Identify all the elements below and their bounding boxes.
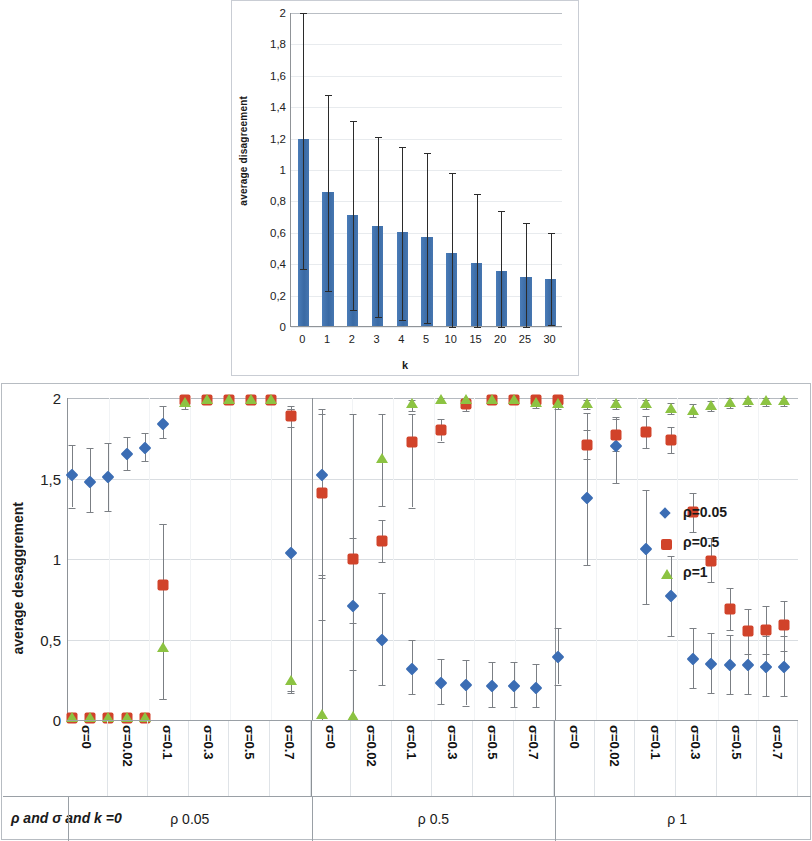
x-axis-sigma-label: σ=0.02	[607, 725, 622, 767]
top-chart-x-axis-label: k	[232, 359, 578, 371]
error-bar-cap	[399, 147, 406, 148]
data-point-marker	[405, 662, 418, 675]
bottom-scatter-chart-panel: average desaggrement 21,510,50 ρ=0.05ρ=0…	[1, 383, 811, 840]
data-point-marker	[102, 471, 115, 484]
error-bar-cap	[424, 323, 431, 324]
data-point-marker	[84, 475, 97, 488]
error-bar-cap	[463, 706, 470, 707]
data-point-marker	[666, 434, 677, 445]
error-bar-cap	[726, 588, 733, 589]
error-bar-cap	[548, 325, 555, 326]
top-chart-gridline	[291, 327, 562, 328]
error-bar-cap	[584, 413, 591, 414]
legend-label: ρ=1	[683, 564, 708, 580]
error-bar-cap	[350, 414, 357, 415]
cell-divider	[474, 398, 475, 720]
data-point-marker	[179, 397, 191, 407]
error-bar-cap	[408, 694, 415, 695]
footer-separator	[312, 797, 313, 841]
data-point-marker	[376, 633, 389, 646]
top-chart-gridline	[291, 13, 562, 14]
error-bar-cap	[424, 153, 431, 154]
data-point-marker	[742, 395, 754, 405]
bottom-chart-y-tick: 0	[53, 712, 61, 729]
error-bar-cap	[532, 664, 539, 665]
x-axis-group-separator	[311, 721, 312, 797]
top-chart-y-tick: 0,8	[270, 195, 286, 207]
error-bar-cap	[319, 414, 326, 415]
error-bar-cap	[160, 699, 167, 700]
error-bar-cap	[408, 411, 415, 412]
top-chart-plot-area	[290, 13, 562, 327]
x-axis-sigma-label: σ=0.3	[445, 725, 460, 760]
data-point-marker	[552, 398, 564, 408]
error-bar-cap	[690, 493, 697, 494]
error-bar-cap	[160, 406, 167, 407]
error-bar-cap	[379, 685, 386, 686]
x-axis-cell: σ=0.3	[676, 721, 717, 797]
x-axis-group-label: ρ 0.05	[170, 811, 209, 827]
data-point-marker	[223, 394, 235, 404]
x-axis-cell: σ=0	[554, 721, 595, 797]
data-point-marker	[761, 624, 772, 635]
top-chart-x-tick-labels: 0123451015202530	[290, 331, 562, 349]
error-bar-cap	[379, 506, 386, 507]
error-bar-cap	[379, 593, 386, 594]
legend-item[interactable]: ρ=0.5	[657, 534, 797, 556]
error-bar-cap	[319, 575, 326, 576]
data-point-marker	[724, 603, 735, 614]
error-bar-cap	[642, 409, 649, 410]
top-chart-y-tick: 0	[280, 321, 286, 333]
x-axis-group-label: ρ 0.5	[418, 811, 449, 827]
x-axis-sigma-label: σ=0.1	[404, 725, 419, 760]
error-bar-cap	[668, 453, 675, 454]
top-chart-gridline	[291, 107, 562, 108]
error-bar-cap	[523, 327, 530, 328]
top-chart-y-tick: 1,4	[270, 101, 286, 113]
x-axis-cell: σ=0.7	[270, 721, 311, 797]
error-bar-cap	[350, 310, 357, 311]
error-bar-cap	[437, 659, 444, 660]
error-bar-cap	[613, 419, 620, 420]
error-bar-cap	[319, 409, 326, 410]
x-axis-sigma-label: σ=0.02	[364, 725, 379, 767]
data-point-marker	[406, 398, 418, 408]
data-point-marker	[742, 626, 753, 637]
x-axis-sigma-label: σ=0.3	[201, 725, 216, 760]
error-bar-cap	[288, 693, 295, 694]
error-bar-cap	[510, 707, 517, 708]
legend-label: ρ=0.05	[683, 504, 727, 520]
error-bar-cap	[532, 707, 539, 708]
cell-divider	[596, 398, 597, 720]
bottom-chart-x-axis: σ=0σ=0.02σ=0.1σ=0.3σ=0.5σ=0.7σ=0σ=0.02σ=…	[67, 720, 798, 797]
error-bar-cap	[763, 606, 770, 607]
data-point-marker	[741, 659, 754, 672]
top-chart-y-tick: 0,4	[270, 258, 286, 270]
error-bar-cap	[408, 414, 415, 415]
x-axis-cell: σ=0.02	[351, 721, 392, 797]
error-bar-cap	[489, 707, 496, 708]
x-axis-cell: σ=0	[311, 721, 352, 797]
error-bar-cap	[160, 438, 167, 439]
error-bar-cap	[182, 409, 189, 410]
data-point-marker	[316, 709, 328, 719]
data-point-marker	[486, 394, 498, 404]
top-bar-chart-panel: average disagreement 21,81,61,41,210,80,…	[231, 0, 579, 376]
data-point-marker	[285, 675, 297, 685]
legend-item[interactable]: ρ=1	[657, 564, 797, 586]
error-bar-cap	[288, 406, 295, 407]
error-bar-cap	[379, 414, 386, 415]
x-axis-cell: σ=0.1	[148, 721, 189, 797]
error-bar-cap	[325, 95, 332, 96]
top-chart-y-tick-labels: 21,81,61,41,210,80,60,40,20	[254, 7, 290, 327]
legend-item[interactable]: ρ=0.05	[657, 504, 797, 526]
x-axis-cell: σ=0.02	[595, 721, 636, 797]
error-bar	[328, 95, 329, 291]
error-bar	[427, 153, 428, 323]
data-point-marker	[265, 394, 277, 404]
x-axis-cell: σ=0.7	[514, 721, 555, 797]
error-bar-cap	[474, 194, 481, 195]
bottom-chart-y-axis-label: average desaggrement	[10, 502, 30, 655]
data-point-marker	[486, 680, 499, 693]
error-bar-cap	[744, 609, 751, 610]
